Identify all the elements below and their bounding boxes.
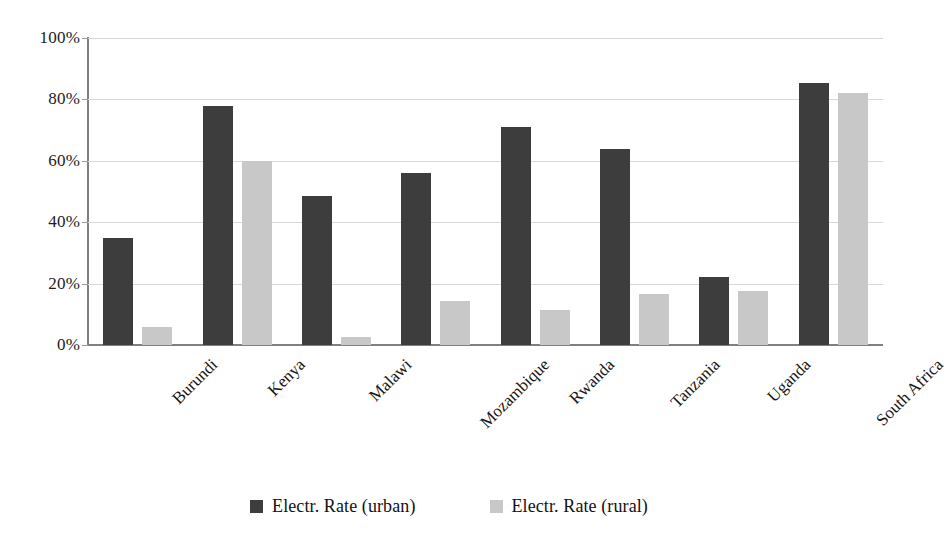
bar bbox=[699, 277, 729, 345]
y-axis-tick bbox=[82, 99, 88, 100]
bar bbox=[203, 106, 233, 345]
bar-group bbox=[784, 38, 883, 345]
x-axis-category-labels: BurundiKenyaMalawiMozambiqueRwandaTanzan… bbox=[88, 345, 883, 475]
legend-swatch-rural bbox=[490, 500, 503, 513]
bar bbox=[838, 93, 868, 345]
legend-label: Electr. Rate (rural) bbox=[512, 497, 648, 515]
x-axis-label: Tanzania bbox=[666, 355, 723, 412]
bar bbox=[103, 238, 133, 345]
bar bbox=[501, 127, 531, 345]
bar bbox=[242, 161, 272, 345]
bar-group bbox=[486, 38, 585, 345]
bar bbox=[302, 196, 332, 345]
legend-item[interactable]: Electr. Rate (rural) bbox=[490, 497, 648, 515]
y-axis-tick bbox=[82, 222, 88, 223]
y-axis-tick bbox=[82, 284, 88, 285]
x-axis-label: Uganda bbox=[763, 355, 814, 406]
bar-group bbox=[88, 38, 187, 345]
plot-area bbox=[88, 38, 883, 345]
bar bbox=[540, 310, 570, 345]
y-axis-tick-label: 40% bbox=[6, 213, 80, 230]
x-axis-label: Burundi bbox=[168, 355, 221, 408]
bar bbox=[738, 291, 768, 345]
bar-group bbox=[386, 38, 485, 345]
bar bbox=[639, 294, 669, 345]
bar bbox=[799, 83, 829, 345]
bar bbox=[401, 173, 431, 345]
bar bbox=[440, 301, 470, 346]
x-axis-label: Kenya bbox=[264, 355, 309, 400]
bar bbox=[142, 327, 172, 345]
y-axis-tick-label: 100% bbox=[6, 29, 80, 46]
legend-label: Electr. Rate (urban) bbox=[272, 497, 415, 515]
bar bbox=[600, 149, 630, 345]
bar-group bbox=[287, 38, 386, 345]
bar-group bbox=[585, 38, 684, 345]
y-axis-tick-label: 80% bbox=[6, 90, 80, 107]
x-axis-label: Mozambique bbox=[476, 355, 553, 432]
x-axis-label: Malawi bbox=[366, 355, 416, 405]
y-axis-tick-label: 20% bbox=[6, 275, 80, 292]
y-axis-tick bbox=[82, 161, 88, 162]
y-axis-tick-label: 60% bbox=[6, 152, 80, 169]
legend-item[interactable]: Electr. Rate (urban) bbox=[250, 497, 415, 515]
x-axis-label: South Africa bbox=[873, 355, 947, 430]
y-axis-tick bbox=[82, 345, 88, 346]
y-axis-tick-labels: 0%20%40%60%80%100% bbox=[0, 0, 80, 400]
chart-legend: Electr. Rate (urban)Electr. Rate (rural) bbox=[0, 489, 898, 523]
bar-group bbox=[187, 38, 286, 345]
bar-group bbox=[684, 38, 783, 345]
y-axis-tick bbox=[82, 38, 88, 39]
y-axis-tick-label: 0% bbox=[6, 336, 80, 353]
bar bbox=[341, 337, 371, 345]
x-axis-label: Rwanda bbox=[566, 355, 619, 408]
legend-swatch-urban bbox=[250, 500, 263, 513]
